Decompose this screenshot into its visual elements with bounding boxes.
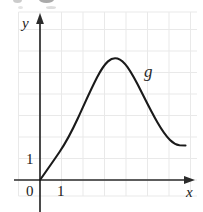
y-axis-label: y bbox=[20, 15, 29, 31]
origin-label: 0 bbox=[26, 183, 34, 199]
figure-container: y x g 0 1 1 bbox=[0, 0, 203, 212]
x-tick-label-1: 1 bbox=[57, 183, 65, 199]
y-tick-label-1: 1 bbox=[26, 151, 34, 167]
curve-label-g: g bbox=[144, 62, 153, 81]
arrow-right-icon bbox=[184, 176, 195, 184]
grid-lines bbox=[19, 12, 198, 196]
arrow-up-icon bbox=[36, 13, 44, 24]
x-axis-label: x bbox=[185, 184, 193, 200]
graph-plot: y x g 0 1 1 bbox=[0, 0, 203, 212]
